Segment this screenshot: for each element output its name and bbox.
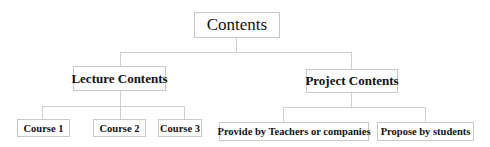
connector-lecture-up bbox=[120, 52, 121, 66]
node-course-2: Course 2 bbox=[93, 119, 146, 137]
connector-project-up bbox=[351, 52, 352, 69]
connector-root-down bbox=[236, 37, 237, 53]
connector-lecture-down bbox=[120, 90, 121, 119]
node-course-3: Course 3 bbox=[158, 119, 202, 137]
node-provide-by-teachers: Provide by Teachers or companies bbox=[219, 122, 369, 141]
connector-provide-up bbox=[283, 107, 284, 122]
connector-propose-up bbox=[425, 107, 426, 122]
connector-lecture-bar bbox=[42, 106, 185, 107]
node-root: Contents bbox=[194, 12, 280, 38]
connector-project-bar bbox=[283, 107, 426, 108]
node-course-1: Course 1 bbox=[17, 119, 70, 137]
connector-course3-up bbox=[184, 106, 185, 119]
connector-course1-up bbox=[42, 106, 43, 119]
node-project-contents: Project Contents bbox=[306, 69, 398, 93]
node-lecture-contents: Lecture Contents bbox=[73, 66, 166, 91]
connector-project-down bbox=[351, 92, 352, 107]
connector-root-bar bbox=[120, 52, 352, 53]
node-propose-by-students: Propose by students bbox=[377, 122, 474, 141]
